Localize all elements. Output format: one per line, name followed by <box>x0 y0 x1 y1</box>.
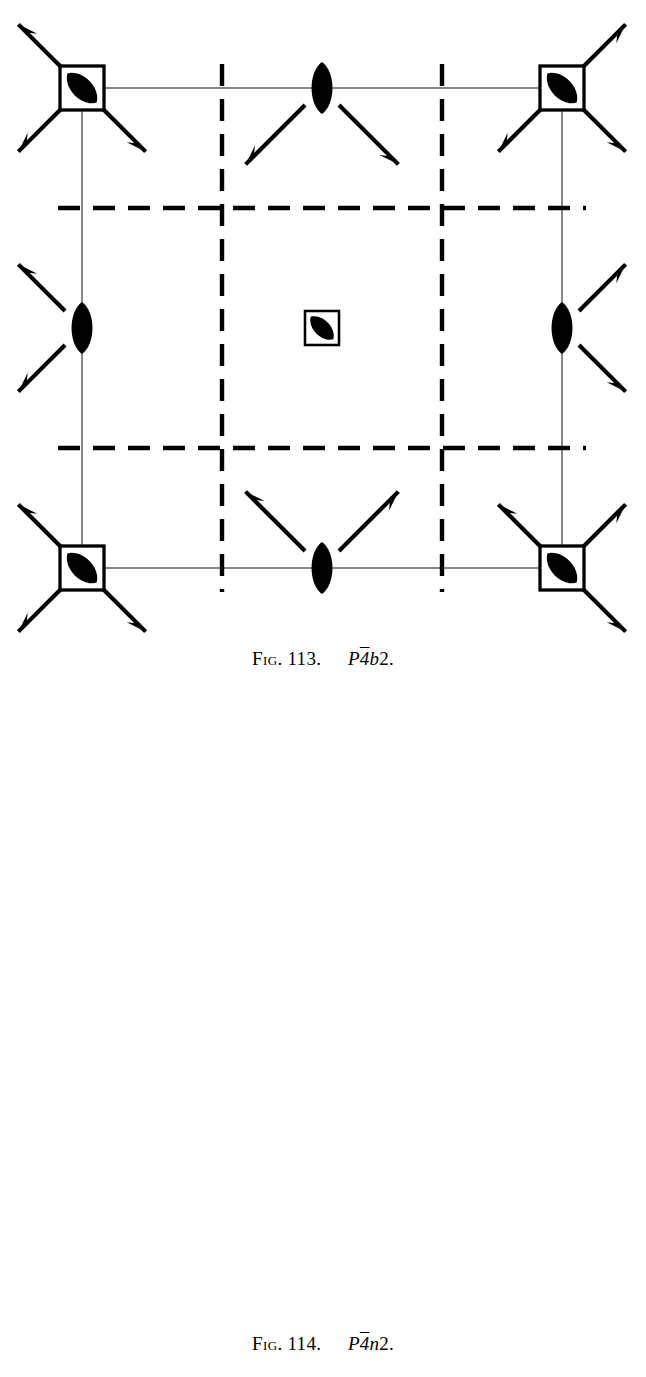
caption-sym-period-113: . <box>389 648 394 669</box>
twofold-axis-arrow-shaft <box>498 504 545 551</box>
caption-sym-p-114: P <box>348 1333 360 1354</box>
caption-symbol-113: P4b2. <box>348 648 394 669</box>
caption-sym-two-113: 2 <box>379 648 389 669</box>
twofold-axis-arrow-shaft <box>579 264 626 311</box>
twofold-axis-arrow-shaft <box>579 24 626 71</box>
space-group-diagram-p4bar-n-2: 1414141414141414141414141414141414141414 <box>0 690 646 1377</box>
caption-symbol-114: P4n2. <box>348 1333 394 1354</box>
twofold-axis-lens <box>552 302 573 354</box>
caption-sym-period-114: . <box>389 1333 394 1354</box>
caption-sym-glide-113: b <box>370 648 380 669</box>
twofold-axis-arrow-shaft <box>339 492 398 551</box>
twofold-axis-lens <box>312 542 333 594</box>
twofold-axis-arrow-shaft <box>339 105 398 164</box>
caption-number-113: 113. <box>288 648 322 669</box>
figure-113-caption: Fig. 113. P4b2. <box>0 648 646 670</box>
caption-sym-p-113: P <box>348 648 360 669</box>
caption-fig-label-113: Fig. <box>252 648 283 669</box>
space-group-diagram-p4bar-b-2 <box>0 0 646 690</box>
twofold-axis-arrow-shaft <box>246 492 305 551</box>
caption-fig-label-114: Fig. <box>252 1333 283 1354</box>
twofold-axis-arrow-shaft <box>18 105 65 152</box>
twofold-axis-arrow-shaft <box>99 585 146 632</box>
caption-sym-bar4-114: 4 <box>360 1333 370 1354</box>
twofold-axis-arrow-shaft <box>18 504 65 551</box>
caption-sym-glide-114: n <box>370 1333 380 1354</box>
twofold-axis-arrow-shaft <box>18 345 65 392</box>
caption-number-114: 114. <box>288 1333 322 1354</box>
figure-114-caption: Fig. 114. P4n2. <box>0 1333 646 1355</box>
twofold-axis-arrow-shaft <box>498 105 545 152</box>
twofold-axis-arrow-shaft <box>579 504 626 551</box>
twofold-axis-lens <box>312 62 333 114</box>
caption-sym-bar4-113: 4 <box>360 648 370 669</box>
caption-sym-two-114: 2 <box>379 1333 389 1354</box>
figure-113 <box>0 0 646 690</box>
figure-114: 1414141414141414141414141414141414141414 <box>0 690 646 1377</box>
twofold-axis-arrow-shaft <box>246 105 305 164</box>
twofold-axis-lens <box>72 302 93 354</box>
